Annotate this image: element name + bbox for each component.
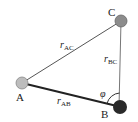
node-a-label: A [16, 91, 24, 103]
edge-bc [119, 21, 121, 107]
node-b-label: B [101, 108, 108, 120]
edge-bc-label-sub: BC [108, 58, 118, 66]
edge-bc-label: rBC [104, 53, 118, 66]
edge-ab [22, 83, 121, 107]
node-a [16, 77, 28, 89]
node-c-label: C [108, 6, 115, 18]
edge-ac [22, 21, 121, 83]
node-b [113, 100, 127, 114]
angle-phi-label: φ [100, 88, 106, 99]
edge-ac-label: rAC [60, 39, 74, 52]
edge-ab-label-sub: AB [61, 100, 71, 108]
triangle-diagram: A B C rAC rBC rAB φ [0, 0, 138, 122]
edge-ab-label: rAB [57, 95, 71, 108]
edge-ac-label-sub: AC [64, 44, 74, 52]
node-c [115, 15, 127, 27]
